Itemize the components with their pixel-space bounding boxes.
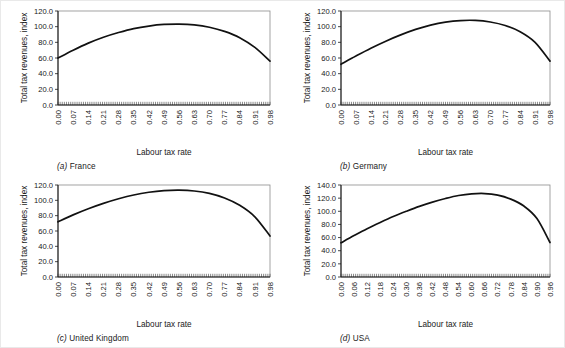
x-tick-label: 0.84 [235,110,244,125]
x-tick-label: 0.49 [441,110,450,125]
panel-caption-usa: (d) USA [340,334,370,343]
x-tick-label: 0.42 [426,110,435,125]
y-tick-label: 40.0 [321,246,336,255]
panel-france: 0.020.040.060.080.0100.0120.00.000.070.1… [1,1,284,175]
x-tick-label: 0.91 [531,110,540,125]
y-tick-label: 0.0 [42,273,53,282]
y-tick-label: 80.0 [321,38,336,47]
panel-usa: 0.020.040.060.080.0100.0120.0140.00.000.… [284,175,564,347]
x-tick-label: 0.21 [381,110,390,125]
x-tick-label: 0.07 [352,110,361,125]
x-tick-label: 0.63 [471,110,480,125]
x-tick-label: 0.35 [129,110,138,125]
y-tick-label: 20.0 [38,85,53,94]
x-tick-label: 0.42 [428,282,437,297]
x-tick-label: 0.36 [415,282,424,297]
x-tick-label: 0.77 [220,110,229,125]
figure-root: 0.020.040.060.080.0100.0120.00.000.070.1… [0,0,565,348]
panel-caption-united-kingdom: (c) United Kingdom [57,334,129,343]
x-tick-label: 0.18 [376,282,385,297]
x-tick-label: 0.35 [129,282,138,297]
x-tick-label: 0.91 [251,110,260,125]
y-tick-label: 120.0 [34,181,53,190]
plot-frame [58,185,270,277]
x-tick-label: 0.35 [411,110,420,125]
y-tick-label: 60.0 [321,233,336,242]
y-tick-label: 100.0 [317,207,336,216]
x-tick-label: 0.70 [486,110,495,125]
y-tick-label: 0.0 [325,101,336,110]
x-tick-label: 0.00 [54,282,63,297]
x-tick-label: 0.70 [205,282,214,297]
x-tick-label: 0.21 [99,110,108,125]
x-tick-label: 0.07 [69,282,78,297]
x-tick-label: 0.91 [251,282,260,297]
caption-letter: (a) [57,162,67,171]
y-tick-label: 140.0 [317,181,336,190]
x-tick-label: 0.66 [480,282,489,297]
y-tick-label: 80.0 [321,220,336,229]
y-axis-title: Total tax revenues, index [20,186,29,277]
y-axis-title: Total tax revenues, index [303,186,312,277]
x-tick-label: 0.00 [54,110,63,125]
x-tick-label: 0.77 [501,110,510,125]
chart-united-kingdom: 0.020.040.060.080.0100.0120.00.000.070.1… [1,175,284,333]
x-axis-title: Labour tax rate [136,320,192,329]
y-tick-label: 100.0 [34,22,53,31]
x-tick-label: 0.54 [454,282,463,297]
y-tick-label: 40.0 [38,242,53,251]
plot-frame [341,11,550,105]
x-tick-label: 0.06 [350,282,359,297]
y-axis-title: Total tax revenues, index [20,13,29,104]
caption-letter: (b) [340,162,350,171]
caption-text: United Kingdom [69,334,129,343]
y-tick-label: 120.0 [317,7,336,16]
x-tick-label: 0.42 [145,110,154,125]
x-tick-label: 0.63 [190,282,199,297]
x-axis-title: Labour tax rate [136,148,192,157]
x-tick-label: 0.14 [84,282,93,297]
x-tick-label: 0.28 [114,110,123,125]
y-tick-label: 20.0 [321,260,336,269]
chart-france: 0.020.040.060.080.0100.0120.00.000.070.1… [1,1,284,161]
y-tick-label: 0.0 [42,101,53,110]
x-tick-label: 0.72 [493,282,502,297]
x-tick-label: 0.48 [441,282,450,297]
x-tick-label: 0.28 [396,110,405,125]
caption-text: Germany [353,162,387,171]
y-tick-label: 80.0 [38,211,53,220]
y-tick-label: 100.0 [34,196,53,205]
x-tick-label: 0.07 [69,110,78,125]
x-tick-label: 0.90 [533,282,542,297]
x-tick-label: 0.63 [190,110,199,125]
x-tick-label: 0.24 [389,282,398,297]
x-tick-label: 0.84 [520,282,529,297]
panel-caption-france: (a) France [57,162,96,171]
x-tick-label: 0.98 [546,110,555,125]
x-tick-label: 0.14 [367,110,376,125]
y-tick-label: 40.0 [321,69,336,78]
panel-grid: 0.020.040.060.080.0100.0120.00.000.070.1… [1,1,564,347]
y-tick-label: 40.0 [38,69,53,78]
panel-united-kingdom: 0.020.040.060.080.0100.0120.00.000.070.1… [1,175,284,347]
x-tick-label: 0.12 [363,282,372,297]
caption-letter: (d) [340,334,350,343]
x-tick-label: 0.21 [99,282,108,297]
x-tick-label: 0.56 [175,282,184,297]
x-tick-label: 0.96 [546,282,555,297]
x-tick-label: 0.49 [160,110,169,125]
caption-text: France [70,162,96,171]
chart-germany: 0.020.040.060.080.0100.0120.00.000.070.1… [284,1,564,161]
panel-germany: 0.020.040.060.080.0100.0120.00.000.070.1… [284,1,564,175]
y-tick-label: 120.0 [317,194,336,203]
x-tick-label: 0.56 [456,110,465,125]
x-tick-label: 0.77 [220,282,229,297]
x-tick-label: 0.84 [235,282,244,297]
y-tick-label: 60.0 [38,54,53,63]
x-tick-label: 0.00 [337,110,346,125]
x-tick-label: 0.42 [145,282,154,297]
x-tick-label: 0.56 [175,110,184,125]
y-axis-title: Total tax revenues, index [303,13,312,104]
y-tick-label: 100.0 [317,22,336,31]
y-tick-label: 0.0 [325,273,336,282]
